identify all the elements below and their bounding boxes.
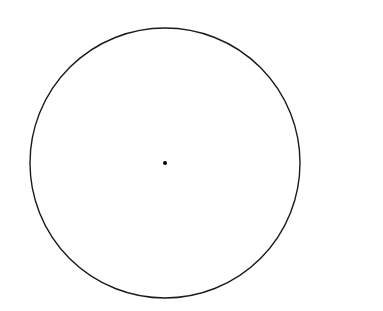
diagram-canvas <box>0 0 383 311</box>
circle-diagram <box>0 0 383 311</box>
center-point <box>163 161 167 165</box>
